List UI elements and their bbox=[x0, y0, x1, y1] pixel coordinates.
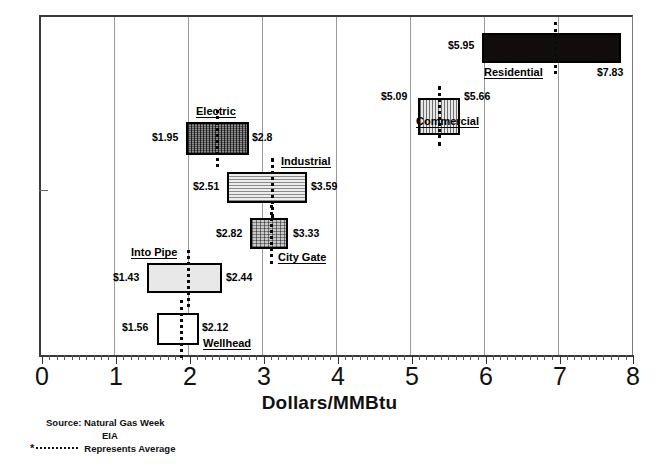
x-axis-label-0: 0 bbox=[35, 362, 49, 390]
bar-label-into-pipe-low: $1.43 bbox=[113, 272, 139, 283]
bar-label-into-pipe-high: $2.44 bbox=[226, 272, 252, 283]
x-axis-label-3: 3 bbox=[257, 362, 271, 390]
x-axis-minor-tick bbox=[160, 355, 161, 360]
asterisk-icon: * bbox=[30, 443, 34, 453]
x-axis-minor-tick bbox=[441, 355, 442, 360]
bar-label-electric-low: $1.95 bbox=[152, 132, 178, 143]
x-axis-minor-tick bbox=[168, 355, 169, 360]
x-axis-label-8: 8 bbox=[626, 362, 640, 390]
bar-label-residential-high: $7.83 bbox=[597, 67, 623, 78]
bar-label-city-gate-low: $2.82 bbox=[216, 228, 242, 239]
series-name-into-pipe: Into Pipe bbox=[131, 246, 177, 259]
x-axis-minor-tick bbox=[256, 355, 257, 360]
x-axis-minor-tick bbox=[293, 355, 294, 360]
x-axis-minor-tick bbox=[419, 355, 420, 360]
x-axis-minor-tick bbox=[470, 355, 471, 360]
x-axis-minor-tick bbox=[493, 355, 494, 360]
x-axis-minor-tick bbox=[57, 355, 58, 360]
x-axis-minor-tick bbox=[626, 355, 627, 360]
y-axis-tick bbox=[39, 190, 48, 191]
x-axis-label-5: 5 bbox=[405, 362, 419, 390]
x-axis-minor-tick bbox=[434, 355, 435, 360]
x-axis-minor-tick bbox=[219, 355, 220, 360]
x-axis-minor-tick bbox=[589, 355, 590, 360]
x-axis-minor-tick bbox=[596, 355, 597, 360]
bar-into-pipe[interactable] bbox=[147, 263, 222, 293]
x-axis-minor-tick bbox=[205, 355, 206, 360]
x-axis-label-7: 7 bbox=[553, 362, 567, 390]
x-axis-minor-tick bbox=[507, 355, 508, 360]
x-axis-minor-tick bbox=[212, 355, 213, 360]
bar-label-city-gate-high: $3.33 bbox=[293, 228, 319, 239]
chart-canvas: $5.95 $7.83 Residential $5.09 $5.66 Comm… bbox=[0, 0, 659, 471]
x-axis-minor-tick bbox=[404, 355, 405, 360]
x-axis-minor-tick bbox=[567, 355, 568, 360]
series-name-industrial: Industrial bbox=[281, 155, 331, 168]
average-marker-residential bbox=[554, 22, 557, 74]
x-axis-minor-tick bbox=[271, 355, 272, 360]
x-axis-minor-tick bbox=[94, 355, 95, 360]
x-axis-minor-tick bbox=[241, 355, 242, 360]
source-note: Source: Natural Gas Week EIA bbox=[46, 416, 165, 442]
x-axis-minor-tick bbox=[49, 355, 50, 360]
x-axis-minor-tick bbox=[72, 355, 73, 360]
x-axis-minor-tick bbox=[175, 355, 176, 360]
bar-industrial[interactable] bbox=[227, 172, 307, 203]
bar-label-wellhead-high: $2.12 bbox=[202, 322, 228, 333]
average-marker-city-gate bbox=[270, 205, 273, 264]
x-axis-minor-tick bbox=[397, 355, 398, 360]
bar-label-commercial-high: $5.66 bbox=[464, 91, 490, 102]
series-name-electric: Electric bbox=[196, 105, 236, 118]
x-axis-minor-tick bbox=[448, 355, 449, 360]
gridline-1 bbox=[114, 17, 115, 355]
x-axis-minor-tick bbox=[131, 355, 132, 360]
bar-label-electric-high: $2.8 bbox=[252, 132, 272, 143]
x-axis-minor-tick bbox=[537, 355, 538, 360]
x-axis-minor-tick bbox=[530, 355, 531, 360]
bar-label-industrial-low: $2.51 bbox=[193, 181, 219, 192]
x-axis-label-2: 2 bbox=[183, 362, 197, 390]
gridline-7 bbox=[558, 17, 559, 355]
x-axis-label-4: 4 bbox=[331, 362, 345, 390]
x-axis-minor-tick bbox=[574, 355, 575, 360]
x-axis-label-1: 1 bbox=[109, 362, 123, 390]
average-marker-wellhead bbox=[180, 300, 183, 358]
x-axis-minor-tick bbox=[101, 355, 102, 360]
series-name-commercial: Commercial bbox=[416, 115, 479, 128]
x-axis-minor-tick bbox=[197, 355, 198, 360]
x-axis-minor-tick bbox=[330, 355, 331, 360]
x-axis-minor-tick bbox=[552, 355, 553, 360]
x-axis-minor-tick bbox=[123, 355, 124, 360]
x-axis-minor-tick bbox=[352, 355, 353, 360]
x-axis-minor-tick bbox=[315, 355, 316, 360]
x-axis-minor-tick bbox=[153, 355, 154, 360]
x-axis-minor-tick bbox=[478, 355, 479, 360]
x-axis-minor-tick bbox=[367, 355, 368, 360]
x-axis-minor-tick bbox=[611, 355, 612, 360]
x-axis-minor-tick bbox=[426, 355, 427, 360]
x-axis-minor-tick bbox=[79, 355, 80, 360]
x-axis-minor-tick bbox=[86, 355, 87, 360]
series-name-wellhead: Wellhead bbox=[203, 337, 251, 350]
x-axis-minor-tick bbox=[108, 355, 109, 360]
x-axis-minor-tick bbox=[301, 355, 302, 360]
dotted-line-icon bbox=[36, 447, 78, 449]
series-name-residential: Residential bbox=[484, 66, 543, 79]
x-axis-minor-tick bbox=[286, 355, 287, 360]
x-axis-minor-tick bbox=[227, 355, 228, 360]
x-axis-minor-tick bbox=[544, 355, 545, 360]
bar-city-gate[interactable] bbox=[250, 218, 288, 249]
x-axis-label-6: 6 bbox=[479, 362, 493, 390]
legend-average-text: Represents Average bbox=[84, 443, 175, 454]
x-axis-minor-tick bbox=[138, 355, 139, 360]
average-marker-electric bbox=[216, 110, 219, 167]
bar-wellhead[interactable] bbox=[157, 313, 199, 345]
bar-label-wellhead-low: $1.56 bbox=[122, 322, 148, 333]
bar-label-industrial-high: $3.59 bbox=[311, 181, 337, 192]
x-axis-minor-tick bbox=[308, 355, 309, 360]
bar-residential[interactable] bbox=[482, 33, 621, 63]
source-line-1: Source: Natural Gas Week bbox=[46, 416, 165, 429]
x-axis-minor-tick bbox=[374, 355, 375, 360]
x-axis-minor-tick bbox=[456, 355, 457, 360]
x-axis-minor-tick bbox=[145, 355, 146, 360]
